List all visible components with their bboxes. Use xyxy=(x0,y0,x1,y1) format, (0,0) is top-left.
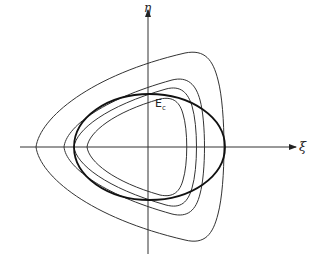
phase-portrait-diagram xyxy=(0,0,319,266)
xi-axis-label: ξ xyxy=(299,139,306,154)
ellipse-label: Ec xyxy=(155,97,166,112)
eta-axis-label: η xyxy=(144,1,151,15)
ellipse-label-main: E xyxy=(155,97,162,110)
ellipse-label-subscript: c xyxy=(162,104,166,112)
